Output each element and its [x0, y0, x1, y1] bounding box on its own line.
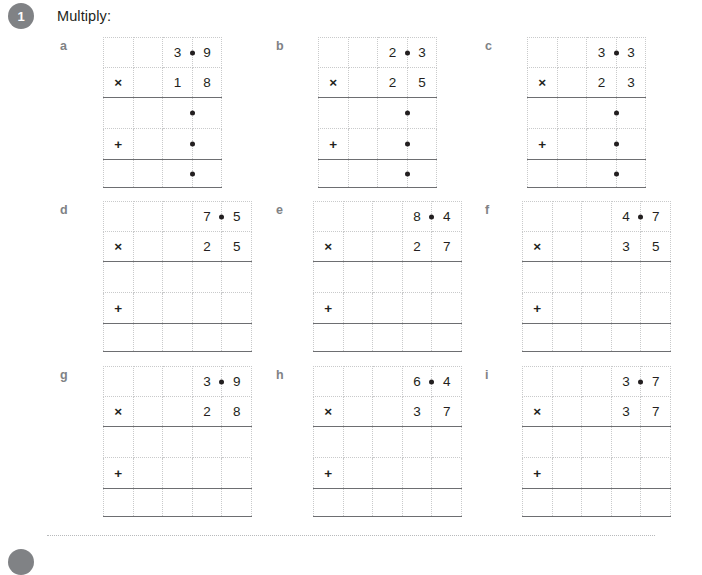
multiplicand-decimal[interactable]: 5 [222, 202, 252, 232]
grid-cell[interactable] [587, 129, 617, 160]
grid-cell[interactable] [133, 427, 163, 458]
multiplicand-whole[interactable]: 4 [611, 202, 641, 232]
grid-cell[interactable] [319, 38, 349, 68]
grid-cell[interactable] [523, 427, 553, 458]
grid-cell[interactable] [348, 98, 378, 129]
add-operator[interactable]: + [104, 293, 134, 324]
grid-cell[interactable] [163, 232, 193, 262]
grid-cell[interactable] [133, 489, 163, 517]
grid-cell[interactable] [373, 458, 403, 489]
multiplier-tens[interactable]: 2 [587, 68, 617, 98]
multiplicand-decimal[interactable]: 7 [641, 202, 671, 232]
grid-cell[interactable] [163, 458, 193, 489]
grid-cell[interactable] [222, 262, 252, 293]
grid-cell[interactable] [222, 458, 252, 489]
grid-cell[interactable] [552, 293, 582, 324]
multiply-operator[interactable]: × [528, 68, 558, 98]
grid-cell[interactable] [407, 98, 437, 129]
grid-cell[interactable] [222, 489, 252, 517]
grid-cell[interactable] [552, 489, 582, 517]
multiplier-tens[interactable]: 2 [378, 68, 408, 98]
grid-cell[interactable] [557, 129, 587, 160]
grid-cell[interactable] [343, 324, 373, 352]
grid-cell[interactable] [314, 427, 344, 458]
grid-cell[interactable] [552, 427, 582, 458]
grid-cell[interactable] [192, 262, 222, 293]
grid-cell[interactable] [343, 293, 373, 324]
grid-cell[interactable] [523, 367, 553, 397]
multiplicand-whole[interactable]: 3 [587, 38, 617, 68]
grid-cell[interactable] [582, 293, 612, 324]
multiply-operator[interactable]: × [314, 397, 344, 427]
grid-cell[interactable] [373, 427, 403, 458]
grid-cell[interactable] [407, 160, 437, 188]
grid-cell[interactable] [133, 38, 163, 68]
grid-cell[interactable] [373, 262, 403, 293]
grid-cell[interactable] [402, 489, 432, 517]
grid-cell[interactable] [133, 458, 163, 489]
grid-cell[interactable] [192, 98, 222, 129]
multiplicand-decimal[interactable]: 4 [432, 202, 462, 232]
grid-cell[interactable] [104, 324, 134, 352]
grid-cell[interactable] [133, 293, 163, 324]
grid-cell[interactable] [378, 160, 408, 188]
grid-cell[interactable] [314, 367, 344, 397]
add-operator[interactable]: + [314, 293, 344, 324]
grid-cell[interactable] [104, 367, 134, 397]
multiplier-ones[interactable]: 7 [432, 397, 462, 427]
grid-cell[interactable] [582, 489, 612, 517]
grid-cell[interactable] [528, 38, 558, 68]
grid-cell[interactable] [192, 129, 222, 160]
multiplicand-whole[interactable]: 3 [192, 367, 222, 397]
grid-cell[interactable] [373, 367, 403, 397]
multiplier-ones[interactable]: 7 [641, 397, 671, 427]
grid-cell[interactable] [343, 262, 373, 293]
multiplier-ones[interactable]: 8 [222, 397, 252, 427]
multiplicand-decimal[interactable]: 3 [407, 38, 437, 68]
multiplier-tens[interactable]: 3 [611, 232, 641, 262]
grid-cell[interactable] [104, 98, 134, 129]
grid-cell[interactable] [611, 427, 641, 458]
grid-cell[interactable] [582, 367, 612, 397]
grid-cell[interactable] [163, 367, 193, 397]
grid-cell[interactable] [402, 262, 432, 293]
grid-cell[interactable] [432, 489, 462, 517]
multiplicand-whole[interactable]: 7 [192, 202, 222, 232]
grid-cell[interactable] [163, 427, 193, 458]
multiplier-ones[interactable]: 8 [192, 68, 222, 98]
add-operator[interactable]: + [314, 458, 344, 489]
grid-cell[interactable] [343, 489, 373, 517]
multiplicand-whole[interactable]: 3 [611, 367, 641, 397]
grid-cell[interactable] [641, 427, 671, 458]
grid-cell[interactable] [616, 98, 646, 129]
grid-cell[interactable] [402, 324, 432, 352]
multiplicand-decimal[interactable]: 4 [432, 367, 462, 397]
multiplier-ones[interactable]: 7 [432, 232, 462, 262]
multiplicand-decimal[interactable]: 7 [641, 367, 671, 397]
grid-cell[interactable] [163, 489, 193, 517]
grid-cell[interactable] [582, 202, 612, 232]
grid-cell[interactable] [314, 262, 344, 293]
grid-cell[interactable] [552, 232, 582, 262]
grid-cell[interactable] [402, 293, 432, 324]
grid-cell[interactable] [104, 38, 134, 68]
grid-cell[interactable] [552, 262, 582, 293]
multiplier-tens[interactable]: 3 [611, 397, 641, 427]
grid-cell[interactable] [523, 202, 553, 232]
grid-cell[interactable] [163, 202, 193, 232]
grid-cell[interactable] [528, 98, 558, 129]
grid-cell[interactable] [582, 458, 612, 489]
grid-cell[interactable] [378, 129, 408, 160]
add-operator[interactable]: + [523, 293, 553, 324]
grid-cell[interactable] [104, 427, 134, 458]
grid-cell[interactable] [402, 458, 432, 489]
multiply-operator[interactable]: × [319, 68, 349, 98]
grid-cell[interactable] [314, 489, 344, 517]
grid-cell[interactable] [432, 293, 462, 324]
grid-cell[interactable] [378, 98, 408, 129]
grid-cell[interactable] [641, 293, 671, 324]
grid-cell[interactable] [582, 427, 612, 458]
grid-cell[interactable] [192, 324, 222, 352]
add-operator[interactable]: + [104, 458, 134, 489]
grid-cell[interactable] [407, 129, 437, 160]
